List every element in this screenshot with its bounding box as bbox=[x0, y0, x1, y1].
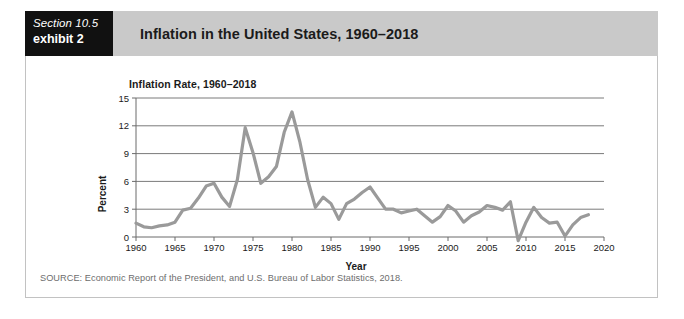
inflation-line-chart: 0369121519601965197019751980198519901995… bbox=[26, 56, 657, 296]
y-tick-label: 6 bbox=[124, 176, 129, 187]
y-tick-label: 9 bbox=[124, 148, 129, 159]
x-tick-label: 1990 bbox=[359, 242, 380, 253]
x-tick-label: 2005 bbox=[476, 242, 497, 253]
section-number-label: Section 10.5 bbox=[33, 16, 113, 31]
x-tick-label: 2000 bbox=[437, 242, 458, 253]
data-line-inflation-rate bbox=[136, 112, 588, 241]
x-tick-label: 2010 bbox=[515, 242, 536, 253]
x-tick-label: 2015 bbox=[554, 242, 575, 253]
exhibit-title: Inflation in the United States, 1960–201… bbox=[140, 11, 418, 56]
x-tick-label: 1985 bbox=[320, 242, 341, 253]
y-tick-label: 12 bbox=[118, 120, 129, 131]
section-tag: Section 10.5 exhibit 2 bbox=[25, 11, 113, 56]
x-tick-label: 2020 bbox=[593, 242, 614, 253]
y-tick-label: 0 bbox=[124, 232, 129, 243]
exhibit-panel: Inflation Rate, 1960–2018 03691215196019… bbox=[25, 56, 658, 298]
x-tick-label: 1975 bbox=[242, 242, 263, 253]
y-axis-label: Percent bbox=[97, 176, 108, 213]
y-tick-label: 3 bbox=[124, 204, 129, 215]
x-tick-label: 1970 bbox=[203, 242, 224, 253]
x-axis-label: Year bbox=[345, 261, 366, 272]
chart-plot-area: 0369121519601965197019751980198519901995… bbox=[26, 56, 657, 296]
x-tick-label: 1980 bbox=[281, 242, 302, 253]
x-tick-label: 1965 bbox=[164, 242, 185, 253]
source-note: SOURCE: Economic Report of the President… bbox=[40, 273, 403, 283]
x-tick-label: 1995 bbox=[398, 242, 419, 253]
exhibit-number-label: exhibit 2 bbox=[33, 31, 113, 47]
x-tick-label: 1960 bbox=[125, 242, 146, 253]
y-tick-label: 15 bbox=[118, 93, 129, 104]
exhibit-figure: Section 10.5 exhibit 2 Inflation in the … bbox=[0, 0, 684, 319]
